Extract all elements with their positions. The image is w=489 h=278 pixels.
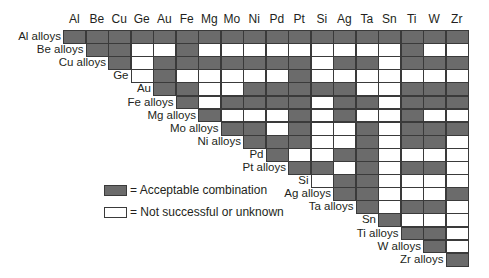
matrix-cell: [378, 122, 401, 136]
matrix-cell: [356, 200, 379, 214]
legend-swatch-acceptable: [104, 185, 127, 196]
matrix-cell: [378, 30, 401, 44]
matrix-cell: [401, 135, 424, 149]
matrix-cell: [401, 148, 424, 162]
matrix-cell: [401, 82, 424, 96]
matrix-cell: [198, 69, 221, 83]
matrix-cell: [108, 30, 131, 44]
matrix-cell: [153, 30, 176, 44]
matrix-cell: [401, 30, 424, 44]
matrix-cell: [288, 56, 311, 70]
column-header-ge: Ge: [131, 12, 154, 26]
matrix-cell: [333, 56, 356, 70]
column-header-cu: Cu: [108, 12, 131, 26]
matrix-cell: [198, 56, 221, 70]
matrix-cell: [221, 69, 244, 83]
matrix-cell: [333, 109, 356, 123]
column-header-al: Al: [63, 12, 86, 26]
matrix-cell: [401, 200, 424, 214]
matrix-cell: [401, 56, 424, 70]
matrix-cell: [378, 135, 401, 149]
matrix-cell: [356, 43, 379, 57]
row-label-al-alloys: Al alloys: [18, 30, 61, 43]
matrix-cell: [266, 56, 289, 70]
matrix-cell: [288, 30, 311, 44]
column-header-be: Be: [86, 12, 109, 26]
matrix-cell: [131, 69, 154, 83]
matrix-cell: [221, 122, 244, 136]
matrix-cell: [243, 30, 266, 44]
row-label-mg-alloys: Mg alloys: [147, 109, 196, 122]
matrix-cell: [446, 187, 469, 201]
matrix-cell: [333, 135, 356, 149]
matrix-cell: [333, 82, 356, 96]
matrix-cell: [333, 122, 356, 136]
matrix-cell: [401, 187, 424, 201]
matrix-cell: [176, 69, 199, 83]
matrix-cell: [378, 69, 401, 83]
matrix-cell: [311, 122, 334, 136]
matrix-cell: [446, 227, 469, 241]
column-header-ni: Ni: [243, 12, 266, 26]
matrix-cell: [243, 135, 266, 149]
row-label-au: Au: [137, 82, 151, 95]
matrix-cell: [243, 43, 266, 57]
matrix-cell: [423, 82, 446, 96]
matrix-cell: [311, 43, 334, 57]
matrix-cell: [243, 82, 266, 96]
matrix-cell: [311, 69, 334, 83]
column-header-mg: Mg: [198, 12, 221, 26]
row-label-fe-alloys: Fe alloys: [127, 96, 173, 109]
matrix-cell: [378, 213, 401, 227]
matrix-cell: [446, 240, 469, 254]
matrix-cell: [378, 56, 401, 70]
matrix-cell: [356, 122, 379, 136]
matrix-cell: [311, 135, 334, 149]
row-label-w-alloys: W alloys: [378, 240, 421, 253]
matrix-cell: [333, 30, 356, 44]
row-label-ti-alloys: Ti alloys: [357, 227, 399, 240]
matrix-cell: [446, 253, 469, 267]
matrix-cell: [311, 82, 334, 96]
matrix-cell: [378, 109, 401, 123]
matrix-cell: [356, 187, 379, 201]
matrix-cell: [333, 43, 356, 57]
matrix-cell: [401, 174, 424, 188]
matrix-cell: [356, 161, 379, 175]
row-label-ta-alloys: Ta alloys: [309, 200, 354, 213]
matrix-cell: [333, 96, 356, 110]
matrix-cell: [311, 96, 334, 110]
matrix-cell: [423, 69, 446, 83]
matrix-cell: [63, 30, 86, 44]
matrix-cell: [446, 69, 469, 83]
matrix-cell: [423, 148, 446, 162]
matrix-cell: [356, 135, 379, 149]
matrix-cell: [266, 109, 289, 123]
matrix-cell: [446, 135, 469, 149]
matrix-cell: [266, 43, 289, 57]
legend-label-acceptable: = Acceptable combination: [130, 184, 267, 196]
matrix-cell: [356, 82, 379, 96]
matrix-cell: [221, 43, 244, 57]
matrix-cell: [176, 30, 199, 44]
matrix-cell: [198, 96, 221, 110]
matrix-cell: [423, 227, 446, 241]
matrix-cell: [446, 213, 469, 227]
matrix-cell: [221, 96, 244, 110]
matrix-cell: [401, 213, 424, 227]
matrix-cell: [378, 96, 401, 110]
matrix-cell: [401, 69, 424, 83]
matrix-cell: [356, 96, 379, 110]
row-label-mo-alloys: Mo alloys: [170, 122, 219, 135]
matrix-cell: [378, 82, 401, 96]
matrix-cell: [423, 174, 446, 188]
column-header-ag: Ag: [333, 12, 356, 26]
column-header-pd: Pd: [266, 12, 289, 26]
matrix-cell: [423, 30, 446, 44]
matrix-cell: [333, 148, 356, 162]
matrix-cell: [356, 148, 379, 162]
matrix-cell: [108, 43, 131, 57]
matrix-cell: [266, 122, 289, 136]
matrix-cell: [401, 161, 424, 175]
column-header-fe: Fe: [176, 12, 199, 26]
